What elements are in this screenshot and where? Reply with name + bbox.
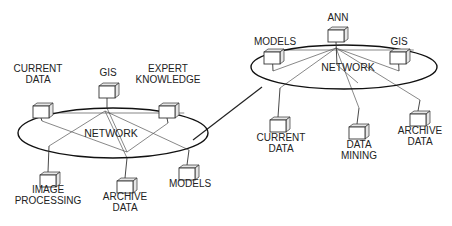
computer-box-icon xyxy=(33,103,53,118)
node-gis: GIS xyxy=(99,67,119,108)
network-left: NETWORKCURRENTDATAGISEXPERTKNOWLEDGEIMAG… xyxy=(14,63,212,213)
node-connector xyxy=(167,118,168,123)
computer-box-icon xyxy=(270,117,290,132)
node-connector xyxy=(357,108,359,124)
node-archive-data: ARCHIVEDATA xyxy=(398,100,443,147)
node-label: CURRENTDATA xyxy=(14,63,63,85)
computer-box-icon xyxy=(410,111,430,126)
node-current-data: CURRENTDATA xyxy=(14,63,63,121)
node-label: CURRENTDATA xyxy=(257,132,306,154)
node-label: ARCHIVEDATA xyxy=(398,125,443,147)
computer-box-icon xyxy=(99,83,119,98)
computer-box-icon xyxy=(390,49,410,64)
node-label: IMAGEPROCESSING xyxy=(15,184,82,206)
node-expert-knowledge: EXPERTKNOWLEDGE xyxy=(135,63,200,123)
node-label: ARCHIVEDATA xyxy=(103,191,148,213)
node-connector xyxy=(278,88,280,117)
network-right: NETWORKMODELSANNGISCURRENTDATADATAMINING… xyxy=(251,12,443,161)
node-gis: GIS xyxy=(390,36,410,71)
node-connector xyxy=(418,100,420,111)
node-ann: ANN xyxy=(327,12,348,65)
node-current-data: CURRENTDATA xyxy=(257,88,306,154)
node-label: ANN xyxy=(327,12,348,23)
node-models: MODELS xyxy=(169,150,212,189)
node-connector xyxy=(187,150,189,165)
computer-box-icon xyxy=(159,103,179,118)
network-diagram: NETWORKCURRENTDATAGISEXPERTKNOWLEDGEIMAG… xyxy=(0,0,452,226)
node-label: GIS xyxy=(99,67,117,78)
node-label: GIS xyxy=(390,36,408,47)
node-label: EXPERTKNOWLEDGE xyxy=(135,63,200,85)
node-connector xyxy=(48,146,49,172)
node-label: MODELS xyxy=(254,36,297,47)
computer-box-icon xyxy=(328,27,348,42)
node-label: DATAMINING xyxy=(341,139,377,161)
computer-box-icon xyxy=(264,49,284,64)
node-archive-data: ARCHIVEDATA xyxy=(103,158,148,213)
computer-box-icon xyxy=(349,124,369,139)
node-connector xyxy=(125,158,127,178)
node-label: MODELS xyxy=(169,178,212,189)
node-models: MODELS xyxy=(254,36,297,71)
link-data-mining xyxy=(336,48,359,108)
network-interconnect-line xyxy=(193,87,262,140)
node-data-mining: DATAMINING xyxy=(341,108,377,161)
network-label: NETWORK xyxy=(321,61,375,73)
network-label: NETWORK xyxy=(84,127,138,139)
